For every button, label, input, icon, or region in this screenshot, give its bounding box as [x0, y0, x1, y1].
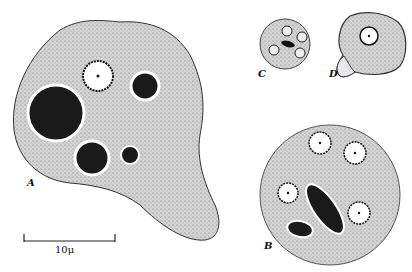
scale-bar-label: 10μ — [55, 244, 74, 255]
panel-a-organism — [13, 20, 218, 240]
food-vacuole — [121, 146, 139, 164]
panel-label-b: B — [264, 240, 272, 251]
scale-bar — [24, 234, 115, 242]
food-vacuole — [75, 141, 109, 175]
panel-d-organism — [337, 13, 406, 77]
figure-canvas — [0, 0, 412, 272]
nucleus — [295, 48, 305, 58]
panel-b-organism — [260, 125, 400, 265]
panel-c-organism — [260, 19, 310, 69]
nucleus — [282, 26, 292, 36]
panel-label-c: C — [258, 68, 266, 79]
nucleus — [269, 45, 279, 55]
food-vacuole — [28, 85, 84, 141]
food-vacuole — [131, 72, 159, 100]
panel-label-d: D — [329, 68, 338, 79]
nucleus — [297, 32, 307, 42]
panel-label-a: A — [27, 177, 35, 188]
